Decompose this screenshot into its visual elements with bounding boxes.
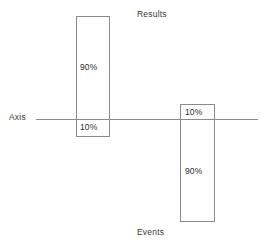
diagram-canvas: Axis 90% 10% Results 10% 90% Events [0, 0, 268, 245]
bar-results [76, 16, 110, 137]
bar-results-above-value: 90% [80, 62, 97, 72]
caption-results: Results [137, 9, 167, 19]
caption-events: Events [137, 227, 164, 237]
bar-results-below-value: 10% [80, 122, 97, 132]
axis-label: Axis [9, 112, 26, 122]
bar-events [180, 104, 215, 222]
bar-events-above-value: 10% [185, 107, 202, 117]
bar-events-below-value: 90% [185, 166, 202, 176]
axis-line [36, 119, 258, 120]
